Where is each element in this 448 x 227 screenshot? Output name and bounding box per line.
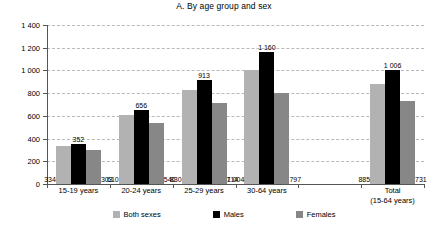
legend-label-males: Males [224,210,244,219]
x-axis-category-label: Total(15-64 years) [361,186,424,205]
legend-label-both-sexes: Both sexes [124,210,161,219]
legend-item-females[interactable]: Females [296,210,336,219]
x-axis-labels: 15-19 years20-24 years25-29 years30-64 y… [47,186,424,212]
x-axis-tick [47,184,48,188]
bar-females[interactable]: 797 [274,93,289,184]
bar-both[interactable]: 885 [370,84,385,185]
y-axis-tick-label: 200 [0,157,40,166]
bar-males[interactable]: 913 [197,80,212,184]
x-axis-tick [298,184,299,188]
x-axis-category-label: 15-19 years [47,186,110,196]
y-axis-tick-label: 1 400 [0,21,40,30]
bar-value-label: 1 004 [227,176,245,184]
chart-legend: Both sexes Males Females [0,210,448,219]
legend-swatch-icon-both-sexes [113,211,120,218]
bar-value-label: 885 [358,176,370,184]
x-axis-tick [110,184,111,188]
bar-value-label: 334 [44,176,56,184]
x-axis-tick [236,184,237,188]
chart-container: A. By age group and sex 3343523036106565… [0,0,448,227]
bar-value-label: 1 160 [258,44,276,52]
bar-value-label: 913 [198,72,210,80]
y-axis-tick-label: 0 [0,180,40,189]
bar-value-label: 610 [107,176,119,184]
bar-both[interactable]: 610 [119,115,134,184]
bar-males[interactable]: 352 [71,144,86,184]
bar-both[interactable]: 1 004 [244,70,259,184]
bar-group: 334352303 [47,25,110,184]
bar-males[interactable]: 1 006 [385,70,400,184]
y-axis-tick-label: 400 [0,134,40,143]
y-axis-tick-label: 1 000 [0,66,40,75]
bar-group [298,25,361,184]
bar-females[interactable]: 540 [149,123,164,184]
y-axis-tick-label: 600 [0,111,40,120]
chart-title: A. By age group and sex [0,1,448,11]
bar-group: 610656540 [110,25,173,184]
legend-item-males[interactable]: Males [213,210,244,219]
bar-females[interactable]: 303 [86,150,101,184]
y-axis-tick-label: 1 200 [0,43,40,52]
bar-value-label: 656 [135,102,147,110]
x-axis-tick [424,184,425,188]
bar-value-label: 830 [170,176,182,184]
x-axis-category-label: 20-24 years [110,186,173,196]
bar-both[interactable]: 830 [182,90,197,184]
bar-group: 1 0041 160797 [236,25,299,184]
bar-value-label: 731 [415,176,427,184]
y-axis-tick-label: 800 [0,89,40,98]
bar-males[interactable]: 656 [134,110,149,185]
x-axis-tick [173,184,174,188]
bar-group: 830913714 [173,25,236,184]
bar-group: 8851 006731 [361,25,424,184]
bar-value-label: 1 006 [384,62,402,70]
x-axis-category-label: 25-29 years [173,186,236,196]
legend-item-both-sexes[interactable]: Both sexes [113,210,161,219]
x-axis-category-label: 30-64 years [236,186,299,196]
bar-females[interactable]: 714 [212,103,227,184]
legend-label-females: Females [307,210,336,219]
bar-females[interactable]: 731 [400,101,415,184]
bar-both[interactable]: 334 [56,146,71,184]
bar-groups: 3343523036106565408309137141 0041 160797… [47,25,424,184]
bar-males[interactable]: 1 160 [259,52,274,184]
legend-swatch-icon-females [296,211,303,218]
bar-value-label: 352 [73,136,85,144]
legend-swatch-icon-males [213,211,220,218]
x-axis-tick [361,184,362,188]
